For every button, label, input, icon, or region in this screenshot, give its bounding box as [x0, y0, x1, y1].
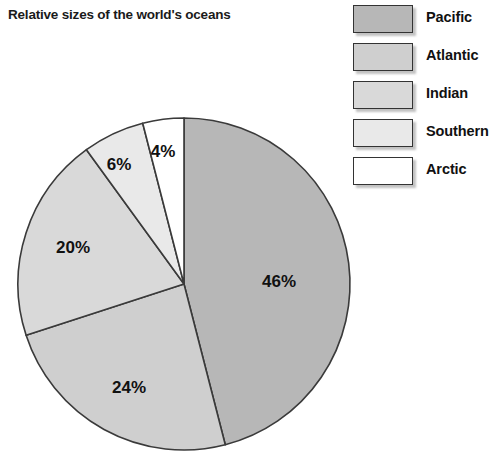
legend-swatch-atlantic [353, 43, 413, 71]
legend-swatch-pacific [353, 5, 413, 33]
pie-slice-value-atlantic: 24% [112, 378, 146, 397]
legend-item-atlantic[interactable]: Atlantic [352, 41, 498, 79]
pie-chart: 46%24%20%6%4% [0, 0, 370, 458]
legend-swatch-indian [353, 81, 413, 109]
legend-item-pacific[interactable]: Pacific [352, 3, 498, 41]
legend-label-arctic: Arctic [426, 161, 467, 177]
pie-slice-value-indian: 20% [56, 238, 90, 257]
legend-item-indian[interactable]: Indian [352, 79, 498, 117]
pie-slice-value-arctic: 4% [151, 142, 176, 161]
pie-slices [18, 118, 350, 450]
legend: Pacific Atlantic Indian Southern Arctic [352, 3, 498, 193]
legend-label-atlantic: Atlantic [426, 47, 478, 63]
legend-label-southern: Southern [426, 123, 489, 139]
legend-label-pacific: Pacific [426, 9, 472, 25]
pie-slice-value-pacific: 46% [262, 272, 296, 291]
legend-item-southern[interactable]: Southern [352, 117, 498, 155]
pie-slice-value-southern: 6% [107, 155, 132, 174]
pie-chart-svg: 46%24%20%6%4% [0, 0, 370, 458]
legend-label-indian: Indian [426, 85, 468, 101]
legend-swatch-southern [353, 119, 413, 147]
legend-swatch-arctic [353, 157, 413, 185]
legend-item-arctic[interactable]: Arctic [352, 155, 498, 193]
